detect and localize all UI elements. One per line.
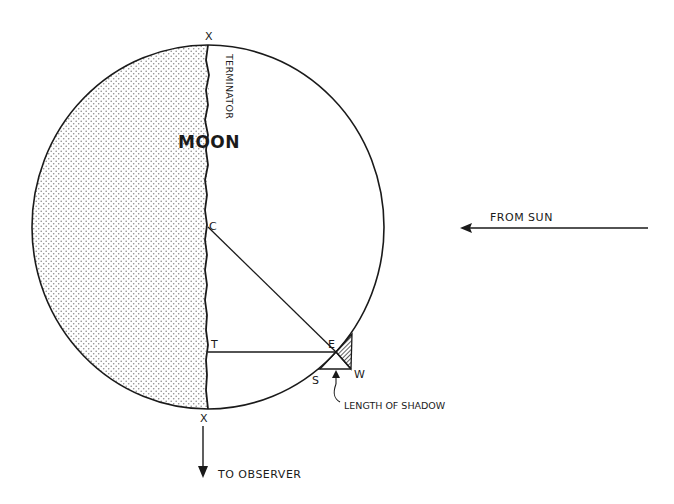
label-from-sun: FROM SUN bbox=[490, 211, 553, 224]
moon-shadow-diagram: X X MOON TERMINATOR C T E S W FROM SUN T… bbox=[0, 0, 674, 504]
label-s: S bbox=[312, 374, 319, 387]
label-length-of-shadow: LENGTH OF SHADOW bbox=[344, 400, 446, 411]
line-e-s bbox=[320, 352, 336, 369]
label-bottom-x: X bbox=[200, 412, 208, 425]
line-c-e bbox=[208, 227, 336, 352]
observer-arrowhead bbox=[198, 466, 208, 478]
dark-side bbox=[0, 0, 209, 504]
shadow-pointer-arrowhead bbox=[332, 370, 340, 378]
shadow-pointer-curve bbox=[334, 384, 340, 402]
label-to-observer: TO OBSERVER bbox=[217, 468, 301, 481]
label-t: T bbox=[210, 338, 218, 351]
mountain-peak-shading bbox=[336, 334, 352, 369]
label-c: C bbox=[209, 220, 217, 233]
label-moon: MOON bbox=[178, 132, 240, 152]
label-top-x: X bbox=[205, 30, 213, 43]
label-e: E bbox=[328, 338, 335, 351]
label-w: W bbox=[354, 368, 365, 381]
label-terminator: TERMINATOR bbox=[224, 53, 235, 119]
